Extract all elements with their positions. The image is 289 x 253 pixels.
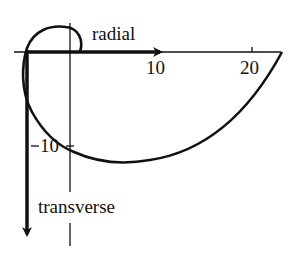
h-tick-label-10: 10 (146, 57, 165, 78)
trajectory-diagram: radial 10 20 10 transverse (0, 0, 289, 253)
transverse-axis-label: transverse (38, 196, 115, 217)
v-tick-label-10: 10 (40, 135, 59, 156)
trajectory-curve (23, 27, 282, 163)
radial-axis-label: radial (92, 23, 135, 44)
h-tick-label-20: 20 (240, 57, 259, 78)
